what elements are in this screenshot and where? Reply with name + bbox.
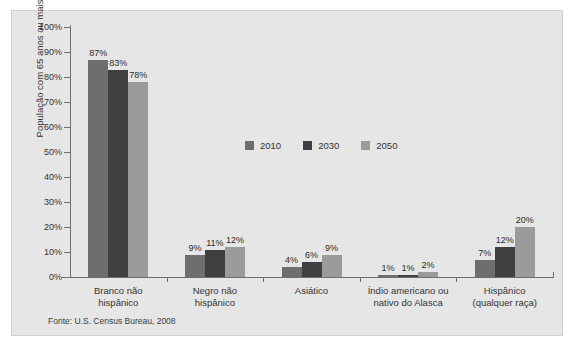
x-axis-category-label: Hispânico(qualquer raça)	[456, 285, 553, 309]
bar-2030-3[interactable]: 6%	[302, 262, 322, 277]
bar-value-label: 1%	[402, 263, 415, 273]
bar-value-label: 2%	[422, 260, 435, 270]
bar-value-label: 1%	[382, 263, 395, 273]
bar-2030-2[interactable]: 11%	[205, 250, 225, 278]
y-axis-tick-label: 10%	[0, 247, 62, 257]
y-axis-tick-label: 50%	[0, 147, 62, 157]
x-axis-category-label-line: Hispânico	[456, 285, 553, 297]
bar-value-label: 87%	[89, 48, 107, 58]
bar-value-label: 7%	[478, 248, 491, 258]
bar-2030-4[interactable]: 1%	[398, 275, 418, 278]
x-axis-separator	[167, 277, 168, 282]
bar-2010-2[interactable]: 9%	[185, 255, 205, 278]
x-axis-category-label-line: hispânico	[70, 297, 167, 309]
legend-label: 2030	[318, 140, 339, 151]
bar-group: 7%12%20%	[475, 27, 535, 277]
x-axis-separator	[263, 277, 264, 282]
legend-label: 2010	[260, 140, 281, 151]
chart-legend: 201020302050	[245, 140, 397, 151]
x-axis-separator	[360, 277, 361, 282]
bar-value-label: 4%	[285, 255, 298, 265]
x-axis-category-label-line: Branco não	[70, 285, 167, 297]
bar-value-label: 78%	[129, 70, 147, 80]
legend-item-2010[interactable]: 2010	[245, 140, 281, 151]
y-axis-tick-label: 100%	[0, 22, 62, 32]
bar-2010-3[interactable]: 4%	[282, 267, 302, 277]
bar-2010-5[interactable]: 7%	[475, 260, 495, 278]
x-axis-category-label: Branco nãohispânico	[70, 285, 167, 309]
x-axis-category-label-line: (qualquer raça)	[456, 297, 553, 309]
y-axis-tick-label: 30%	[0, 197, 62, 207]
bar-value-label: 20%	[516, 215, 534, 225]
y-axis-tick-label: 40%	[0, 172, 62, 182]
bar-group: 87%83%78%	[88, 27, 148, 277]
y-axis-tick-label: 20%	[0, 222, 62, 232]
x-axis-category-label: Negro nãohispânico	[167, 285, 264, 309]
x-axis-separator	[553, 272, 554, 277]
bar-2010-1[interactable]: 87%	[88, 60, 108, 278]
y-axis-tick-mark	[64, 277, 70, 278]
bar-2030-1[interactable]: 83%	[108, 70, 128, 278]
plot-area: 87%83%78%9%11%12%4%6%9%1%1%2%7%12%20%	[70, 27, 553, 277]
source-note: Fonte: U.S. Census Bureau, 2008	[48, 316, 176, 326]
bar-group: 4%6%9%	[282, 27, 342, 277]
legend-swatch-icon	[245, 141, 254, 150]
legend-item-2030[interactable]: 2030	[303, 140, 339, 151]
x-axis-category-label-line: nativo do Alasca	[360, 297, 457, 309]
x-axis-category-label-line: Negro não	[167, 285, 264, 297]
bar-value-label: 12%	[226, 235, 244, 245]
legend-swatch-icon	[361, 141, 370, 150]
bar-2050-3[interactable]: 9%	[322, 255, 342, 278]
bar-group: 9%11%12%	[185, 27, 245, 277]
x-axis-category-label-line: Asiático	[263, 285, 360, 297]
x-axis-category-label: Asiático	[263, 285, 360, 297]
y-axis-tick-label: 70%	[0, 97, 62, 107]
bar-value-label: 12%	[496, 235, 514, 245]
bar-2050-4[interactable]: 2%	[418, 272, 438, 277]
bar-2050-5[interactable]: 20%	[515, 227, 535, 277]
bar-value-label: 83%	[109, 58, 127, 68]
bar-2030-5[interactable]: 12%	[495, 247, 515, 277]
bar-value-label: 9%	[188, 243, 201, 253]
bar-2050-1[interactable]: 78%	[128, 82, 148, 277]
bar-value-label: 6%	[305, 250, 318, 260]
bar-2010-4[interactable]: 1%	[378, 275, 398, 278]
x-axis-category-label-line: hispânico	[167, 297, 264, 309]
figure-canvas: População com 65 anos ou mais 0%10%20%30…	[0, 0, 573, 346]
x-axis-category-label-line: Índio americano ou	[360, 285, 457, 297]
legend-item-2050[interactable]: 2050	[361, 140, 397, 151]
y-axis-tick-label: 60%	[0, 122, 62, 132]
x-axis-separator	[456, 277, 457, 282]
legend-label: 2050	[376, 140, 397, 151]
bar-2050-2[interactable]: 12%	[225, 247, 245, 277]
y-axis-tick-label: 90%	[0, 47, 62, 57]
x-axis-line	[62, 277, 554, 278]
legend-swatch-icon	[303, 141, 312, 150]
bar-value-label: 11%	[206, 238, 223, 248]
bar-group: 1%1%2%	[378, 27, 438, 277]
y-axis-tick-label: 80%	[0, 72, 62, 82]
x-axis-category-label: Índio americano ounativo do Alasca	[360, 285, 457, 309]
bar-value-label: 9%	[325, 243, 338, 253]
y-axis-tick-label: 0%	[0, 272, 62, 282]
